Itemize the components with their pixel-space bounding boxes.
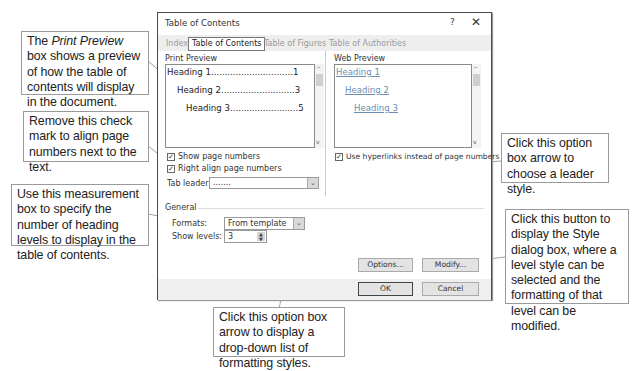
formats-value: From template <box>228 219 286 228</box>
callout-emphasis: Print Preview <box>51 34 123 48</box>
web-heading-1-link[interactable]: Heading 1 <box>336 67 380 77</box>
preview-heading-3: Heading 3.........................5 <box>186 103 304 113</box>
close-icon[interactable]: ✕ <box>471 15 481 29</box>
tab-table-of-figures[interactable]: Table of Figures <box>261 38 329 50</box>
callout-print-preview: The Print Preview box shows a preview of… <box>21 31 149 95</box>
tab-panel: Print Preview Heading 1.................… <box>162 51 487 279</box>
show-levels-value[interactable]: 3 <box>228 232 233 241</box>
scroll-thumb[interactable] <box>473 74 480 86</box>
heading-text: Heading 1 <box>167 67 211 77</box>
scroll-down-icon[interactable]: v <box>316 138 320 145</box>
leader-dots: .............................. <box>211 67 293 77</box>
scroll-up-icon[interactable]: ^ <box>316 65 321 72</box>
web-heading-3-link[interactable]: Heading 3 <box>354 103 398 113</box>
web-preview-label: Web Preview <box>334 54 385 63</box>
scroll-up-icon[interactable]: ^ <box>473 65 478 72</box>
callout-tab-leader: Click this option box arrow to choose a … <box>501 133 609 183</box>
tab-table-of-authorities[interactable]: Table of Authorities <box>326 38 409 50</box>
heading-text: Heading 3 <box>186 103 230 113</box>
cancel-button[interactable]: Cancel <box>422 282 479 296</box>
right-align-page-numbers-label: Right align page numbers <box>178 164 282 173</box>
formats-dropdown[interactable]: From template ⌄ <box>224 217 305 230</box>
print-preview-label: Print Preview <box>165 54 217 63</box>
show-page-numbers-label: Show page numbers <box>178 152 260 161</box>
title-bar: Table of Contents ? ✕ <box>158 13 491 35</box>
help-icon[interactable]: ? <box>450 17 455 27</box>
options-button[interactable]: Options... <box>358 258 413 272</box>
table-of-contents-dialog: Table of Contents ? ✕ Index Table of Con… <box>157 12 492 300</box>
chevron-down-icon[interactable]: ⌄ <box>307 178 318 188</box>
modify-button[interactable]: Modify... <box>422 258 479 272</box>
scroll-down-icon[interactable]: v <box>473 138 477 145</box>
leader-dots: ........................... <box>221 85 295 95</box>
web-heading-2-link[interactable]: Heading 2 <box>345 85 389 95</box>
print-preview-scrollbar[interactable]: ^ v <box>315 64 324 148</box>
callout-text: The <box>27 34 51 48</box>
web-preview-box: Heading 1 Heading 2 Heading 3 <box>334 64 472 148</box>
preview-heading-1: Heading 1..............................1 <box>167 67 298 77</box>
callout-right-align: Remove this check mark to align page num… <box>23 111 149 162</box>
page-number: 1 <box>293 67 298 77</box>
tab-leader-label: Tab leader: <box>167 179 211 188</box>
general-group-divider <box>198 208 484 209</box>
show-levels-stepper[interactable]: 3 ▲▼ <box>224 230 267 243</box>
page-number: 5 <box>298 103 303 113</box>
print-preview-box: Heading 1..............................1… <box>165 64 315 148</box>
page-number: 3 <box>295 85 300 95</box>
leader-dots: ......................... <box>230 103 298 113</box>
heading-text: Heading 2 <box>177 85 221 95</box>
preview-heading-2: Heading 2...........................3 <box>177 85 300 95</box>
tab-index[interactable]: Index <box>163 38 191 50</box>
column-divider <box>325 51 326 196</box>
callout-formats: Click this option box arrow to display a… <box>213 307 345 357</box>
general-group-label: General <box>165 203 197 212</box>
formats-label: Formats: <box>172 219 207 228</box>
chevron-down-icon[interactable]: ⌄ <box>293 218 304 229</box>
tab-leader-value: ....... <box>213 178 231 187</box>
tab-leader-dropdown[interactable]: ....... ⌄ <box>209 177 319 189</box>
ok-button[interactable]: OK <box>358 282 413 296</box>
scroll-thumb[interactable] <box>316 74 323 86</box>
callout-modify: Click this button to display the Style d… <box>505 209 629 304</box>
spin-buttons[interactable]: ▲▼ <box>257 232 265 241</box>
dialog-footer: OK Cancel <box>158 279 491 300</box>
right-align-page-numbers-checkbox[interactable]: ✓ <box>167 165 175 173</box>
use-hyperlinks-checkbox[interactable]: ✓ <box>335 153 343 161</box>
web-preview-scrollbar[interactable]: ^ v <box>472 64 481 148</box>
show-levels-label: Show levels: <box>172 232 222 241</box>
dialog-title: Table of Contents <box>165 18 240 28</box>
tab-table-of-contents[interactable]: Table of Contents <box>188 37 265 51</box>
show-page-numbers-checkbox[interactable]: ✓ <box>167 153 175 161</box>
callout-show-levels: Use this measurement box to specify the … <box>11 184 149 246</box>
use-hyperlinks-label: Use hyperlinks instead of page numbers <box>346 152 499 161</box>
tab-strip: Index Table of Contents Table of Figures… <box>158 35 491 51</box>
